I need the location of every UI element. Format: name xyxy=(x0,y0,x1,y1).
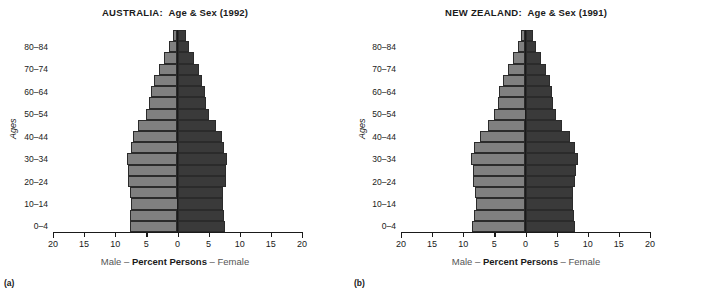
center-axis-line xyxy=(525,30,526,232)
x-axis-tick xyxy=(209,232,210,237)
x-axis-title: Male – Percent Persons – Female xyxy=(351,256,701,267)
x-axis-tick xyxy=(53,232,54,238)
bar-male xyxy=(498,97,525,108)
bar-male xyxy=(131,142,178,153)
y-axis-tick-label: 0–4 xyxy=(34,221,48,231)
bar-male xyxy=(508,64,525,75)
panel-letter-b: (b) xyxy=(354,278,365,288)
bar-female xyxy=(526,198,573,209)
y-axis-tick-label: 10–14 xyxy=(24,199,48,209)
bar-male xyxy=(488,120,525,131)
bar-female xyxy=(178,30,186,41)
bar-male xyxy=(131,198,178,209)
y-axis-tick-label: 50–54 xyxy=(24,109,48,119)
bar-female xyxy=(526,165,576,176)
x-axis-tick-label: 20 xyxy=(396,239,406,249)
x-axis-tick-label: 5 xyxy=(492,239,497,249)
y-axis-labels: 80–8470–7460–6450–5440–4430–3420–2410–14… xyxy=(351,30,396,232)
chart-title-country: NEW ZEALAND: xyxy=(445,7,522,18)
chart-title-rest: Age & Sex (1991) xyxy=(528,7,608,18)
bar-female xyxy=(178,210,224,221)
x-axis-tick-label: 15 xyxy=(266,239,276,249)
bar-female xyxy=(178,165,227,176)
y-axis-tick-label: 80–84 xyxy=(24,42,48,52)
x-axis-tick-label: 5 xyxy=(206,239,211,249)
y-axis-tick-label: 10–14 xyxy=(372,199,396,209)
x-axis-tick-label: 5 xyxy=(144,239,149,249)
bar-female xyxy=(526,97,553,108)
y-axis-tick-label: 30–34 xyxy=(24,154,48,164)
bar-male xyxy=(138,120,177,131)
x-axis-title-right: – Female xyxy=(558,256,600,267)
bar-male xyxy=(474,210,526,221)
x-axis-tick xyxy=(146,232,147,237)
bar-female xyxy=(178,64,199,75)
y-axis-tick-label: 20–24 xyxy=(24,177,48,187)
y-axis-tick-label: 70–74 xyxy=(24,64,48,74)
bar-female xyxy=(526,41,537,52)
x-axis: 201510505101520 xyxy=(53,232,302,233)
bar-male xyxy=(474,142,526,153)
x-axis-title: Male – Percent Persons – Female xyxy=(0,256,350,267)
bar-male xyxy=(146,109,178,120)
bar-female xyxy=(178,120,217,131)
x-axis-title-mid: Percent Persons xyxy=(483,256,558,267)
x-axis-tick-label: 15 xyxy=(427,239,437,249)
bar-male xyxy=(130,210,177,221)
y-axis-labels: 80–8470–7460–6450–5440–4430–3420–2410–14… xyxy=(0,30,48,232)
x-axis-tick xyxy=(271,232,272,237)
bar-male xyxy=(473,165,525,176)
x-axis-tick xyxy=(84,232,85,237)
bar-female xyxy=(526,176,576,187)
bar-female xyxy=(526,187,574,198)
chart-title-rest: Age & Sex (1992) xyxy=(169,7,249,18)
bar-male xyxy=(499,86,525,97)
bar-male xyxy=(513,52,525,63)
bar-female xyxy=(178,131,222,142)
y-axis-tick-label: 40–44 xyxy=(24,132,48,142)
bar-female xyxy=(178,86,205,97)
bar-female xyxy=(526,210,575,221)
x-axis-tick xyxy=(619,232,620,237)
bar-male xyxy=(475,187,525,198)
bar-female xyxy=(178,221,225,232)
y-axis-tick-label: 20–24 xyxy=(372,177,396,187)
bar-female xyxy=(178,109,209,120)
x-axis-tick xyxy=(463,232,464,237)
y-axis-tick-label: 60–64 xyxy=(24,87,48,97)
x-axis-tick-label: 20 xyxy=(297,239,307,249)
bar-female xyxy=(526,120,563,131)
bar-female xyxy=(178,187,223,198)
bar-female xyxy=(178,75,203,86)
x-axis-title-right: – Female xyxy=(207,256,249,267)
bar-female xyxy=(178,97,206,108)
chart-title: NEW ZEALAND: Age & Sex (1991) xyxy=(351,7,701,18)
y-axis-tick-label: 0–4 xyxy=(382,221,396,231)
bar-male xyxy=(130,221,178,232)
bar-female xyxy=(178,52,195,63)
bar-male xyxy=(151,86,178,97)
bar-male xyxy=(154,75,178,86)
bar-female xyxy=(526,75,550,86)
chart-panel-australia: AUSTRALIA: Age & Sex (1992) Ages 80–8470… xyxy=(0,0,350,303)
bar-male xyxy=(127,153,177,164)
y-axis-tick-label: 50–54 xyxy=(372,109,396,119)
y-axis-tick-label: 30–34 xyxy=(372,154,396,164)
bar-female xyxy=(178,142,224,153)
bar-female xyxy=(526,109,557,120)
x-axis-tick xyxy=(302,232,303,238)
x-axis-tick xyxy=(178,232,179,237)
bar-male xyxy=(133,131,178,142)
x-axis-tick xyxy=(401,232,402,238)
bar-male xyxy=(471,153,525,164)
bar-male xyxy=(164,52,178,63)
bar-male xyxy=(128,165,177,176)
center-axis-line xyxy=(177,30,178,232)
bar-male xyxy=(473,176,525,187)
bar-female xyxy=(526,86,553,97)
x-axis-tick-label: 20 xyxy=(645,239,655,249)
panel-letter-a: (a) xyxy=(4,278,14,288)
x-axis-tick xyxy=(494,232,495,237)
x-axis-tick-label: 5 xyxy=(554,239,559,249)
bar-female xyxy=(526,221,576,232)
